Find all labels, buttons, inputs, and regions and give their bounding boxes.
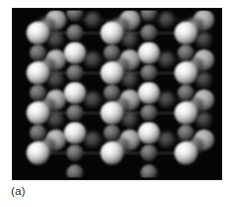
figure-root: (a) (0, 0, 233, 207)
crystal-lattice-diagram (12, 8, 222, 180)
figure-caption: (a) (11, 184, 25, 198)
crystal-structure-panel (12, 8, 222, 180)
